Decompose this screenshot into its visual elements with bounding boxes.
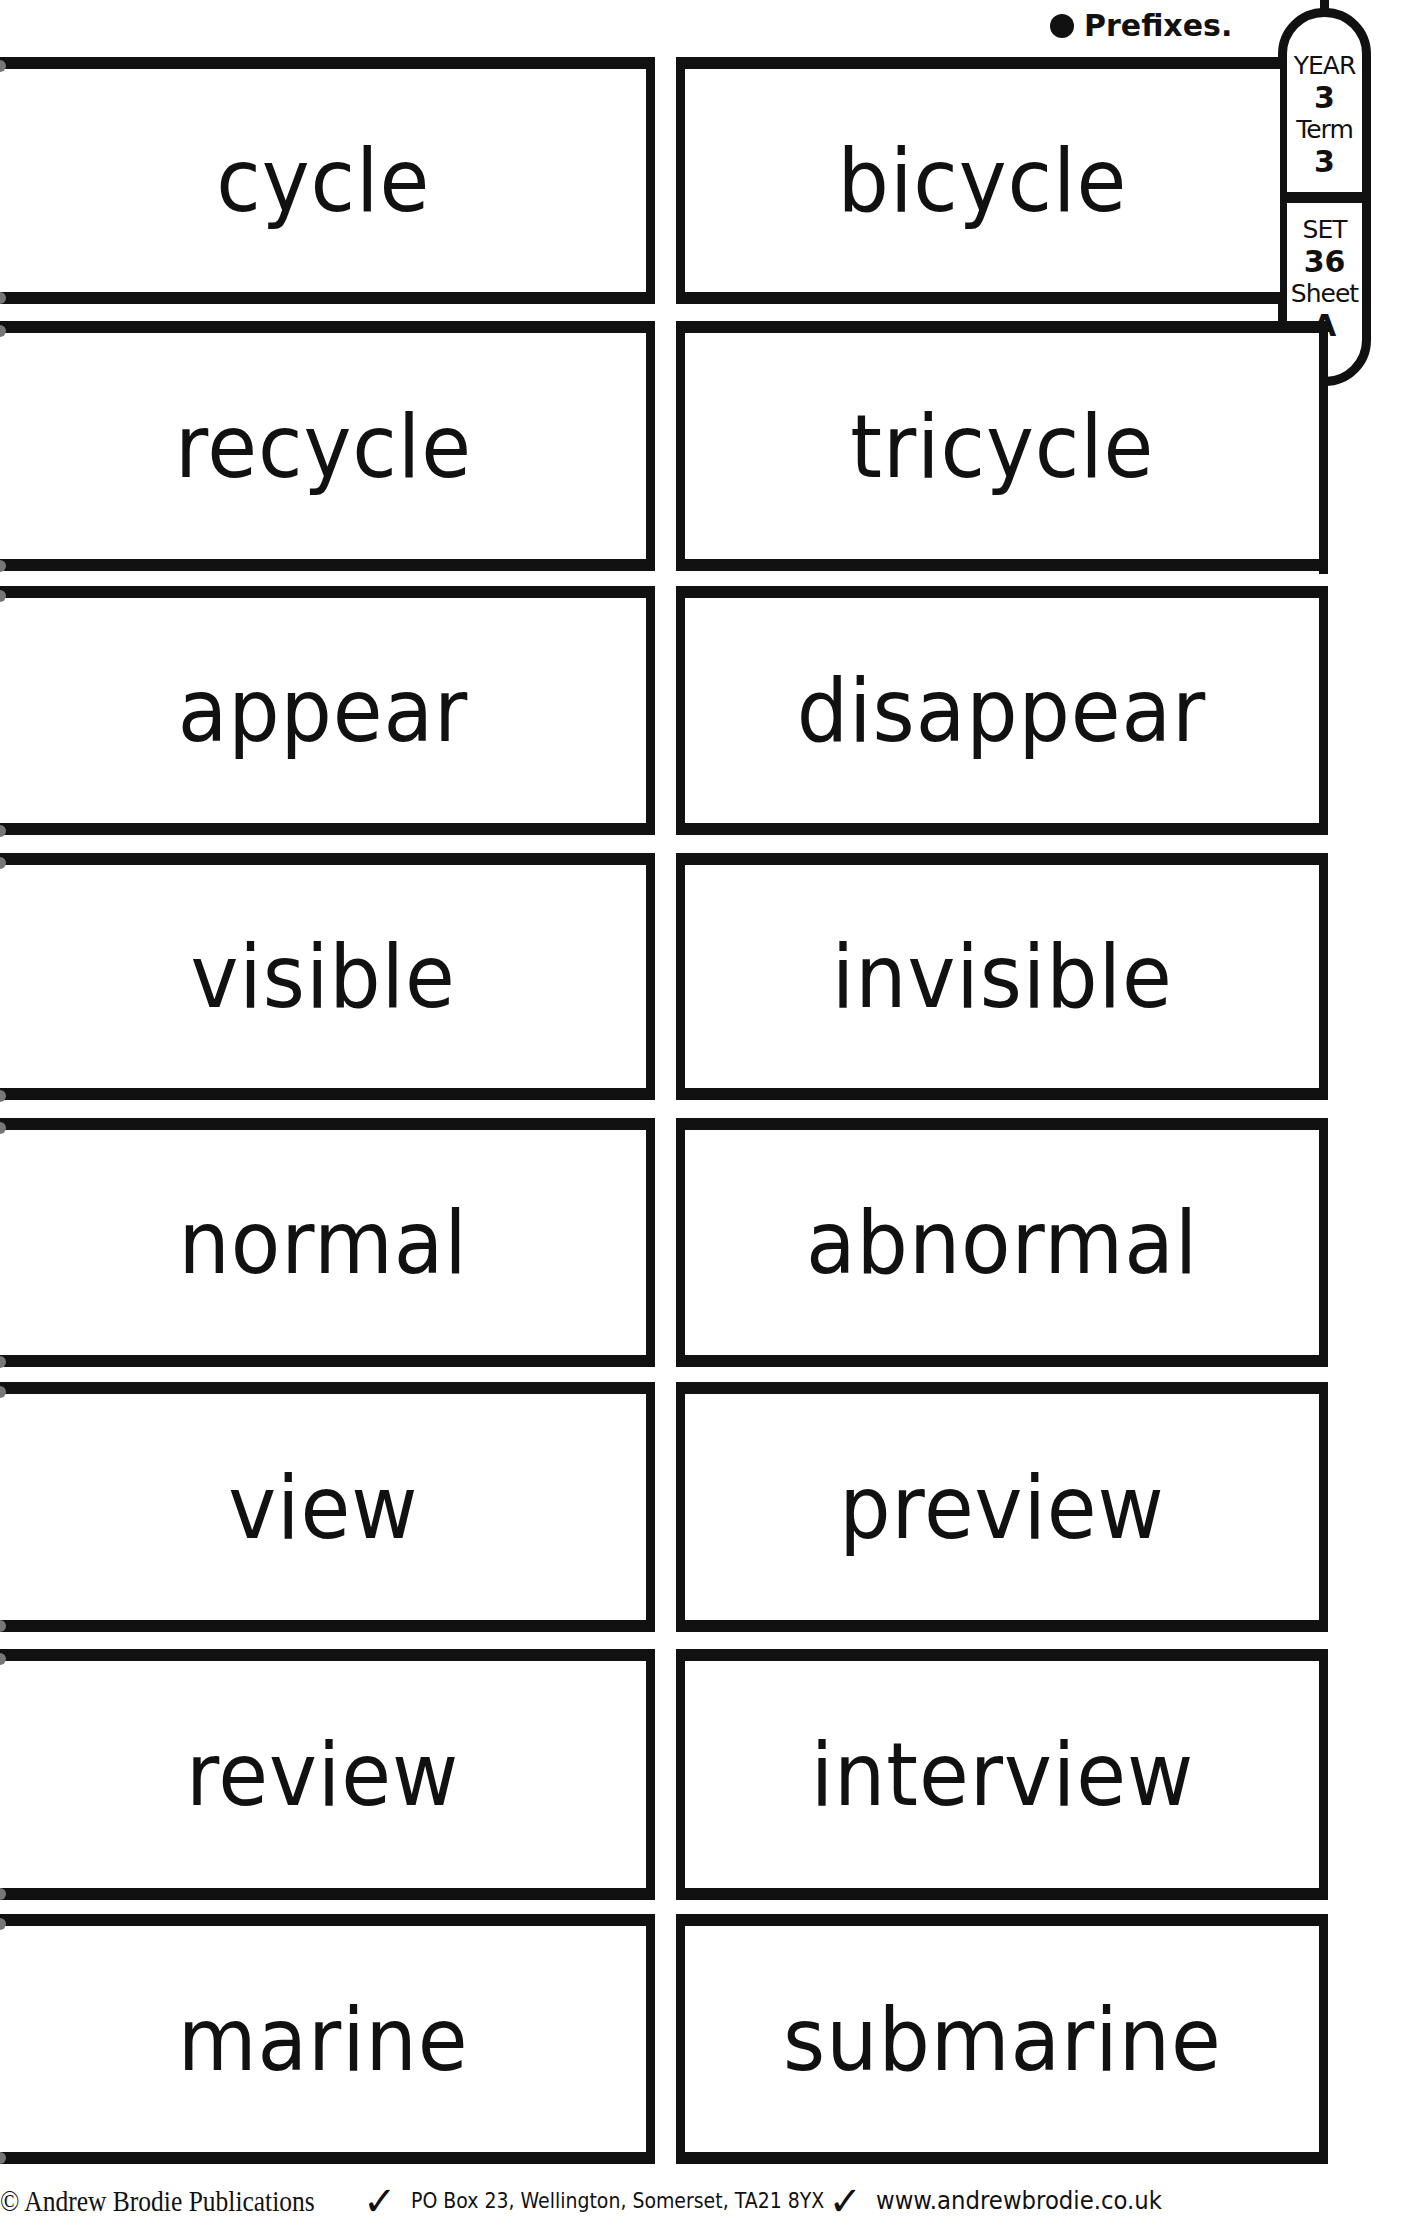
card-word: normal — [178, 1191, 467, 1294]
card-word: view — [228, 1456, 418, 1559]
badge-year-value: 3 — [1314, 81, 1335, 115]
publisher-name: © Andrew Brodie Publications — [0, 2184, 302, 2218]
word-card-prefixed: disappear — [676, 586, 1328, 835]
word-card-root: appear — [0, 586, 655, 835]
card-word: recycle — [174, 395, 471, 498]
publisher-address: PO Box 23, Wellington, Somerset, TA21 8Y… — [411, 2189, 780, 2213]
badge-set-label: SET — [1303, 215, 1347, 245]
topic-heading: Prefixes. — [1050, 8, 1232, 43]
word-card-root: normal — [0, 1118, 655, 1367]
badge-term-value: 3 — [1314, 145, 1335, 179]
card-word: review — [186, 1723, 459, 1826]
card-word: submarine — [783, 1988, 1222, 2091]
word-card-prefixed: tricycle — [676, 321, 1328, 571]
publisher-footer: © Andrew Brodie Publications ✓ PO Box 23… — [0, 2178, 1177, 2224]
publisher-website: www.andrewbrodie.co.uk — [876, 2187, 1162, 2215]
word-card-prefixed: invisible — [676, 853, 1328, 1100]
card-word: abnormal — [806, 1191, 1198, 1294]
badge-divider — [1287, 192, 1362, 203]
badge-year-term-section: YEAR 3 Term 3 — [1287, 17, 1362, 192]
word-card-root: visible — [0, 853, 655, 1100]
badge-year-label: YEAR — [1294, 51, 1356, 81]
badge-sheet-label: Sheet — [1291, 279, 1358, 309]
word-card-prefixed: preview — [676, 1382, 1328, 1632]
card-word: interview — [810, 1723, 1193, 1826]
word-card-prefixed: bicycle — [676, 57, 1280, 304]
card-word: invisible — [832, 925, 1173, 1028]
card-word: disappear — [797, 659, 1206, 762]
card-word: bicycle — [838, 129, 1128, 232]
card-word: cycle — [216, 129, 430, 232]
badge-set-value: 36 — [1304, 245, 1346, 279]
card-word: preview — [839, 1456, 1165, 1559]
word-card-prefixed: submarine — [676, 1914, 1328, 2164]
checkmark-icon: ✓ — [829, 2178, 863, 2224]
word-card-prefixed: abnormal — [676, 1118, 1328, 1367]
word-card-root: view — [0, 1382, 655, 1632]
checkmark-icon: ✓ — [363, 2178, 397, 2224]
badge-term-label: Term — [1296, 115, 1353, 145]
card-word: tricycle — [850, 395, 1154, 498]
card-word: visible — [190, 925, 455, 1028]
word-card-root: cycle — [0, 57, 655, 304]
topic-title: Prefixes. — [1084, 8, 1232, 43]
word-card-root: review — [0, 1649, 655, 1900]
word-card-prefixed: interview — [676, 1649, 1328, 1900]
word-card-root: marine — [0, 1914, 655, 2164]
bullet-icon — [1050, 14, 1074, 38]
card-word: marine — [178, 1988, 469, 2091]
word-card-root: recycle — [0, 321, 655, 571]
card-word: appear — [178, 659, 469, 762]
